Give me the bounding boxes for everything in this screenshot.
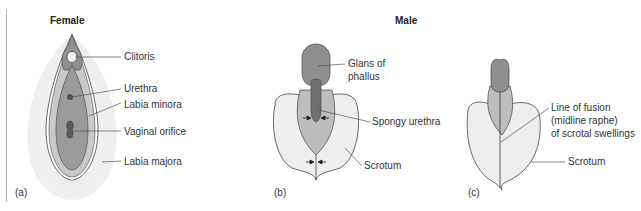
label-fusion-line3: of scrotal swellings <box>551 128 635 140</box>
glans-c <box>491 59 509 92</box>
panel-label-a: (a) <box>15 187 27 198</box>
label-scrotum-b: Scrotum <box>364 160 401 172</box>
anatomy-diagram <box>0 0 641 211</box>
label-fusion-line1: Line of fusion <box>551 102 611 114</box>
label-vaginal-orifice: Vaginal orifice <box>124 126 186 138</box>
panel-label-b: (b) <box>274 187 286 198</box>
urethra-shape <box>67 94 72 99</box>
label-labia-minora: Labia minora <box>124 99 182 111</box>
panel-label-c: (c) <box>468 187 480 198</box>
label-glans-line1: Glans of <box>348 58 385 70</box>
label-scrotum-c: Scrotum <box>568 156 605 168</box>
label-glans-line2: phallus <box>348 71 380 83</box>
label-clitoris: Clitoris <box>124 51 155 63</box>
label-urethra: Urethra <box>124 83 157 95</box>
label-labia-majora: Labia majora <box>124 156 182 168</box>
label-fusion-line2: (midline raphe) <box>551 115 618 127</box>
label-spongy-urethra: Spongy urethra <box>372 116 440 128</box>
urethral-groove-b <box>311 79 321 122</box>
vaginal-orifice-shape <box>67 121 74 138</box>
female-diagram <box>27 34 121 200</box>
